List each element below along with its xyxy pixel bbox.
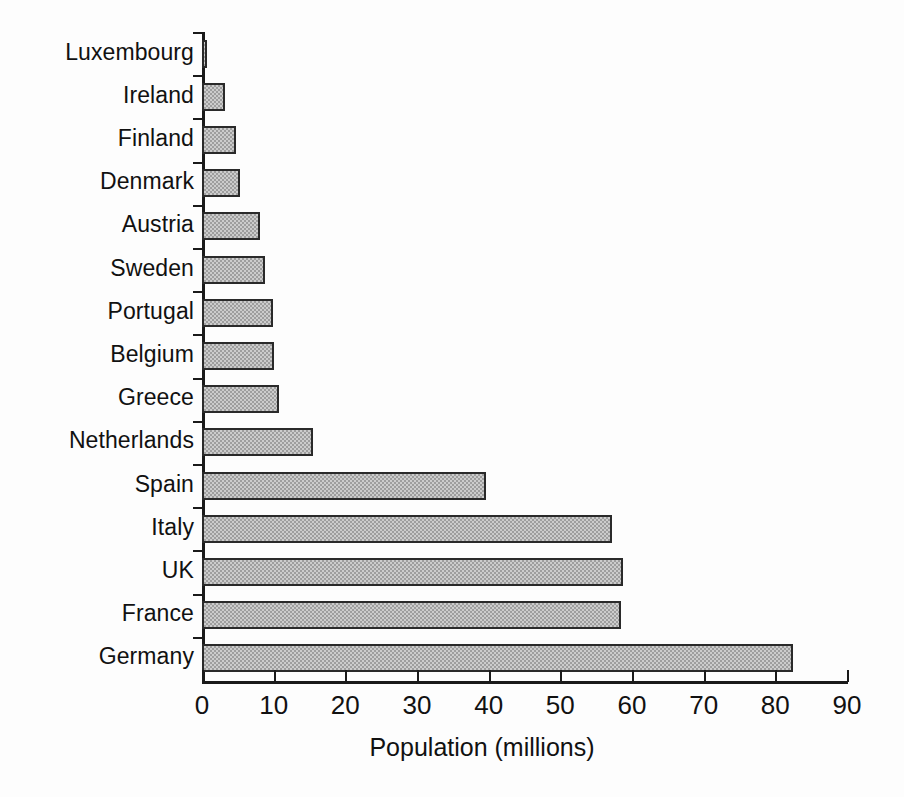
bar-sweden	[202, 256, 265, 284]
category-label-finland: Finland	[2, 125, 194, 152]
category-label-ireland: Ireland	[2, 82, 194, 109]
category-label-portugal: Portugal	[2, 298, 194, 325]
category-label-italy: Italy	[2, 514, 194, 541]
category-label-sweden: Sweden	[2, 255, 194, 282]
x-tick-label: 0	[195, 690, 209, 721]
bar-row	[202, 507, 847, 550]
x-tick	[704, 670, 706, 682]
bar-netherlands	[202, 428, 313, 456]
bar-austria	[202, 212, 260, 240]
x-tick-label: 80	[761, 690, 790, 721]
bar-luxembourg	[202, 40, 207, 68]
bar-row	[202, 550, 847, 593]
x-tick	[560, 670, 562, 682]
bar-row	[202, 421, 847, 464]
category-label-austria: Austria	[2, 211, 194, 238]
bar-spain	[202, 472, 486, 500]
bar-row	[202, 291, 847, 334]
x-tick	[345, 670, 347, 682]
x-tick	[202, 670, 204, 682]
category-label-spain: Spain	[2, 471, 194, 498]
bar-row	[202, 205, 847, 248]
x-tick	[274, 670, 276, 682]
bar-row	[202, 162, 847, 205]
category-label-luxembourg: Luxembourg	[2, 39, 194, 66]
x-tick-label: 40	[474, 690, 503, 721]
bar-row	[202, 32, 847, 75]
category-label-belgium: Belgium	[2, 341, 194, 368]
x-tick-label: 70	[689, 690, 718, 721]
bar-portugal	[202, 299, 273, 327]
plot-area	[202, 32, 847, 680]
x-tick-label: 60	[618, 690, 647, 721]
x-tick-label: 10	[259, 690, 288, 721]
bar-row	[202, 334, 847, 377]
bar-uk	[202, 558, 623, 586]
bar-row	[202, 75, 847, 118]
bar-denmark	[202, 169, 240, 197]
x-tick-layer: 0102030405060708090	[202, 681, 852, 741]
x-tick	[489, 670, 491, 682]
category-label-uk: UK	[2, 557, 194, 584]
bar-finland	[202, 126, 236, 154]
x-axis-title: Population (millions)	[0, 733, 904, 762]
bar-france	[202, 601, 621, 629]
category-label-denmark: Denmark	[2, 168, 194, 195]
x-tick	[417, 670, 419, 682]
bar-row	[202, 378, 847, 421]
bar-ireland	[202, 83, 225, 111]
bar-row	[202, 637, 847, 680]
bar-italy	[202, 515, 612, 543]
bar-row	[202, 594, 847, 637]
x-tick	[775, 670, 777, 682]
x-tick-label: 20	[331, 690, 360, 721]
bar-greece	[202, 385, 279, 413]
bar-row	[202, 118, 847, 161]
category-label-layer: LuxembourgIrelandFinlandDenmarkAustriaSw…	[0, 32, 194, 680]
category-label-germany: Germany	[2, 643, 194, 670]
category-label-france: France	[2, 600, 194, 627]
x-tick-label: 50	[546, 690, 575, 721]
x-tick-label: 90	[833, 690, 862, 721]
bar-row	[202, 248, 847, 291]
x-tick-label: 30	[403, 690, 432, 721]
bar-row	[202, 464, 847, 507]
bar-germany	[202, 644, 793, 672]
bar-chart: LuxembourgIrelandFinlandDenmarkAustriaSw…	[0, 0, 904, 797]
x-tick	[632, 670, 634, 682]
category-label-netherlands: Netherlands	[2, 427, 194, 454]
x-tick	[847, 670, 849, 682]
bar-belgium	[202, 342, 274, 370]
category-label-greece: Greece	[2, 384, 194, 411]
